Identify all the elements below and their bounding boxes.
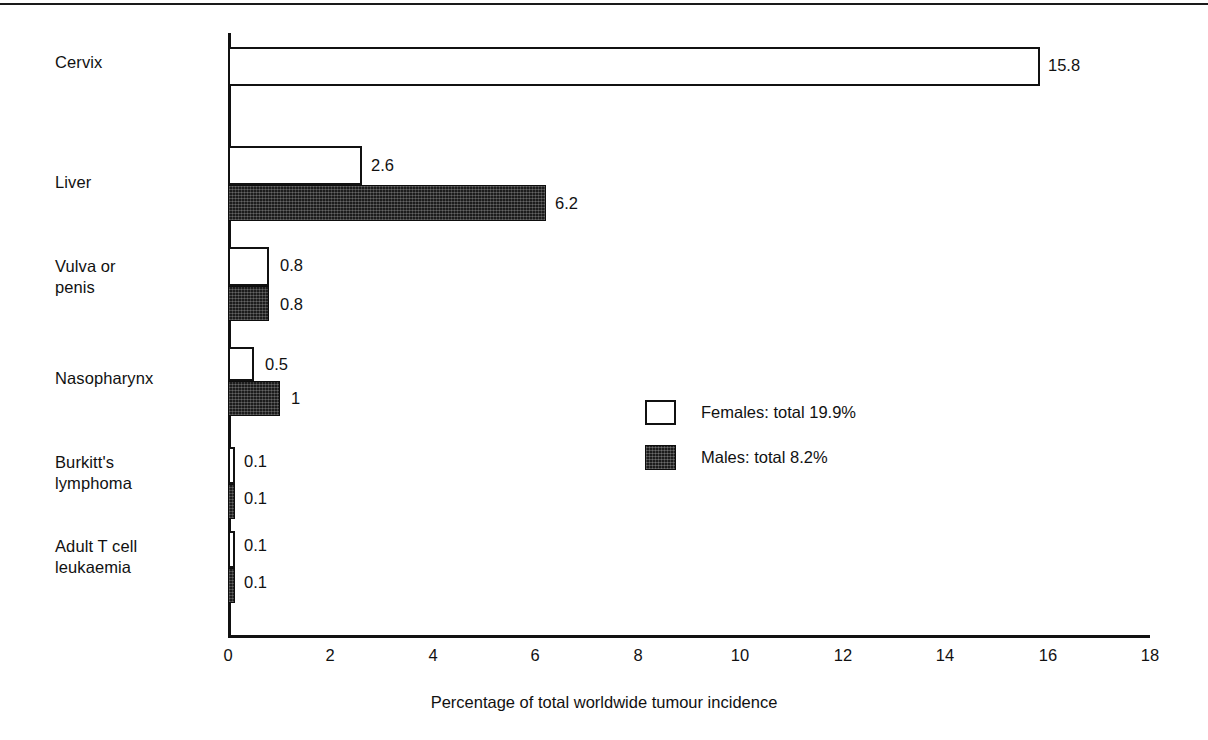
bar-adult-t-cell-leukaemia-males[interactable] [228, 568, 235, 603]
bar-cervix-females[interactable] [228, 47, 1040, 86]
x-axis-title: Percentage of total worldwide tumour inc… [0, 692, 1208, 712]
bar-value-adult-t-cell-leukaemia-females: 0.1 [244, 536, 267, 554]
x-tick-4: 4 [413, 645, 453, 665]
x-axis-line [228, 635, 1150, 638]
bar-nasopharynx-males[interactable] [228, 381, 280, 416]
legend-swatch-females [645, 400, 676, 425]
bar-value-vulva-or-penis-males: 0.8 [280, 295, 303, 313]
bar-value-liver-females: 2.6 [371, 156, 394, 174]
bar-value-vulva-or-penis-females: 0.8 [280, 256, 303, 274]
category-label-vulva-or-penis: Vulva or penis [55, 256, 116, 298]
chart-page: Cervix Liver Vulva or penis Nasopharynx … [0, 0, 1208, 740]
bar-value-adult-t-cell-leukaemia-males: 0.1 [244, 573, 267, 591]
category-label-burkitts-lymphoma: Burkitt's lymphoma [55, 452, 132, 494]
x-tick-0: 0 [208, 645, 248, 665]
category-label-nasopharynx: Nasopharynx [55, 368, 153, 389]
bar-vulva-or-penis-females[interactable] [228, 247, 269, 286]
bar-nasopharynx-females[interactable] [228, 347, 254, 381]
x-tick-6: 6 [515, 645, 555, 665]
x-tick-2: 2 [310, 645, 350, 665]
x-tick-14: 14 [925, 645, 965, 665]
bar-burkitts-lymphoma-females[interactable] [228, 447, 235, 484]
bar-value-burkitts-lymphoma-females: 0.1 [244, 452, 267, 470]
category-label-cervix: Cervix [55, 52, 102, 73]
bar-value-nasopharynx-males: 1 [291, 389, 300, 407]
bar-value-cervix-females: 15.8 [1048, 56, 1080, 74]
legend-label-females: Females: total 19.9% [701, 402, 856, 422]
category-label-adult-t-cell-leukaemia: Adult T cell leukaemia [55, 536, 137, 578]
x-tick-18: 18 [1130, 645, 1170, 665]
bar-value-nasopharynx-females: 0.5 [265, 355, 288, 373]
x-tick-16: 16 [1028, 645, 1068, 665]
bar-value-liver-males: 6.2 [555, 194, 578, 212]
bar-liver-males[interactable] [228, 185, 546, 221]
legend-label-males: Males: total 8.2% [701, 447, 828, 467]
x-tick-10: 10 [720, 645, 760, 665]
legend-swatch-males [645, 445, 676, 470]
page-top-rule [0, 3, 1208, 5]
x-tick-12: 12 [823, 645, 863, 665]
bar-liver-females[interactable] [228, 146, 362, 185]
bar-adult-t-cell-leukaemia-females[interactable] [228, 531, 235, 568]
x-tick-8: 8 [618, 645, 658, 665]
bar-value-burkitts-lymphoma-males: 0.1 [244, 489, 267, 507]
bar-vulva-or-penis-males[interactable] [228, 286, 269, 321]
bar-burkitts-lymphoma-males[interactable] [228, 484, 235, 519]
category-label-liver: Liver [55, 172, 91, 193]
